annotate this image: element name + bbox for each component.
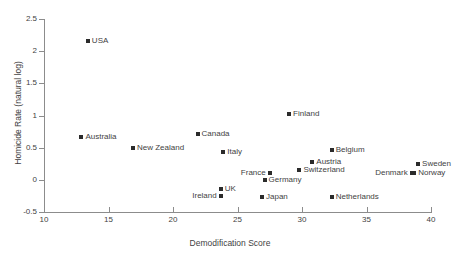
data-point-marker xyxy=(131,146,135,150)
data-point-label: Finland xyxy=(293,110,319,118)
data-point-label: Canada xyxy=(202,130,230,138)
x-tick-mark xyxy=(173,207,174,213)
data-point-label: Switzerland xyxy=(303,166,344,174)
data-point-label: USA xyxy=(92,37,108,45)
data-point-label: Netherlands xyxy=(336,193,379,201)
data-point-marker xyxy=(196,132,200,136)
data-point-marker xyxy=(330,195,334,199)
data-point-label: Australia xyxy=(85,133,116,141)
y-tick-label: -0.5 xyxy=(23,208,37,216)
y-tick-label: 2.5 xyxy=(26,15,37,23)
data-point-label: Norway xyxy=(418,169,445,177)
y-tick-label: 1.5 xyxy=(26,79,37,87)
data-point-marker xyxy=(330,148,334,152)
data-point-label: Belgium xyxy=(336,146,365,154)
x-tick-label: 30 xyxy=(290,216,314,224)
data-point-label: UK xyxy=(225,185,236,193)
x-tick-mark xyxy=(431,207,432,213)
data-point-marker xyxy=(86,39,90,43)
data-point-label: New Zealand xyxy=(137,144,184,152)
data-point-label: Germany xyxy=(269,176,302,184)
data-point-marker xyxy=(219,187,223,191)
data-point-label: France xyxy=(241,169,266,177)
x-tick-label: 15 xyxy=(97,216,121,224)
y-tick-mark xyxy=(39,116,45,117)
y-tick-label: 2 xyxy=(33,47,37,55)
y-tick-label: 1 xyxy=(33,112,37,120)
x-tick-mark xyxy=(44,207,45,213)
y-tick-label: 0.5 xyxy=(26,144,37,152)
data-point-marker xyxy=(260,195,264,199)
data-point-label: Sweden xyxy=(422,160,451,168)
data-point-marker xyxy=(263,178,267,182)
data-point-marker xyxy=(412,171,416,175)
x-axis-title: Demodification Score xyxy=(0,238,460,248)
x-tick-label: 25 xyxy=(226,216,250,224)
data-point-marker xyxy=(219,194,223,198)
data-point-marker xyxy=(221,150,225,154)
x-tick-mark xyxy=(238,207,239,213)
y-tick-mark xyxy=(39,148,45,149)
y-tick-label: 0 xyxy=(33,176,37,184)
y-tick-mark xyxy=(39,180,45,181)
scatter-chart: -0.500.511.522.5 10152025303540 USAAustr… xyxy=(0,0,460,264)
data-point-marker xyxy=(297,168,301,172)
x-tick-label: 40 xyxy=(419,216,443,224)
x-tick-mark xyxy=(109,207,110,213)
x-tick-label: 35 xyxy=(355,216,379,224)
x-tick-mark xyxy=(302,207,303,213)
x-tick-mark xyxy=(367,207,368,213)
data-point-marker xyxy=(416,162,420,166)
data-point-label: Ireland xyxy=(192,192,216,200)
y-tick-mark xyxy=(39,83,45,84)
x-tick-label: 20 xyxy=(161,216,185,224)
data-point-label: Denmark xyxy=(375,169,407,177)
y-axis-title: Homicide Rate (natural log) xyxy=(13,23,23,203)
data-point-label: Italy xyxy=(227,148,242,156)
data-point-label: Japan xyxy=(266,193,288,201)
y-tick-mark xyxy=(39,51,45,52)
y-tick-mark xyxy=(39,19,45,20)
data-point-marker xyxy=(287,112,291,116)
data-point-marker xyxy=(310,160,314,164)
data-point-marker xyxy=(79,135,83,139)
x-tick-label: 10 xyxy=(32,216,56,224)
